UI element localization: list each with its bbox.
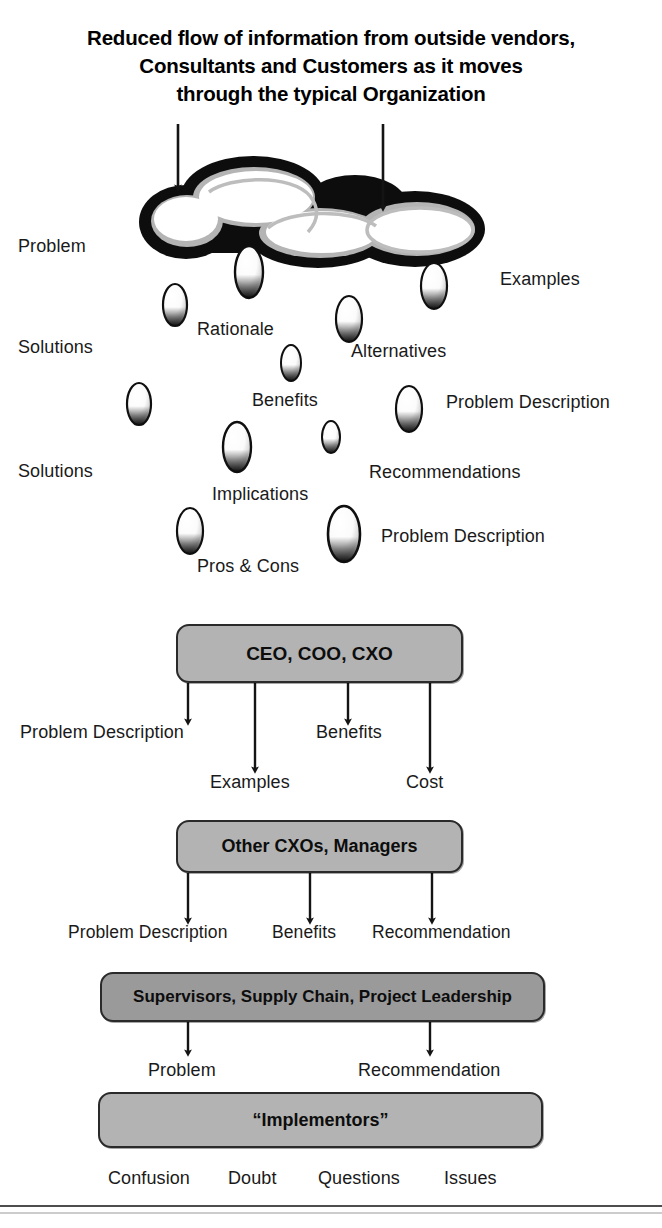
flow-label-ceo-cost: Cost: [406, 772, 443, 793]
org-box-other-cxos-label: Other CXOs, Managers: [221, 836, 417, 857]
arrows-from-supervisors: [188, 1022, 430, 1053]
droplet: [421, 263, 447, 309]
droplet-label-solutions-1: Solutions: [18, 337, 93, 358]
droplet: [235, 246, 263, 298]
arrows-from-ceo: [188, 683, 430, 770]
outcome-label-issues: Issues: [444, 1168, 497, 1189]
droplet-label-recommendations: Recommendations: [369, 462, 521, 483]
diagram-canvas: Reduced flow of information from outside…: [0, 0, 662, 1228]
flow-label-sup-problem: Problem: [148, 1060, 216, 1081]
flow-label-ceo-problem-description: Problem Description: [20, 722, 184, 743]
droplet: [223, 422, 251, 472]
diagram-graphics: [0, 0, 662, 1228]
droplet: [328, 506, 360, 562]
droplet-label-implications: Implications: [212, 484, 308, 505]
droplet: [336, 296, 362, 342]
footer-divider: [0, 1206, 662, 1213]
org-box-other-cxos[interactable]: Other CXOs, Managers: [176, 820, 463, 873]
droplet-label-alternatives: Alternatives: [351, 341, 446, 362]
droplet-label-problem-description-2: Problem Description: [381, 526, 545, 547]
flow-label-ceo-benefits: Benefits: [316, 722, 382, 743]
org-box-ceo[interactable]: CEO, COO, CXO: [176, 624, 463, 683]
droplet-label-solutions-2: Solutions: [18, 461, 93, 482]
org-box-implementors-label: “Implementors”: [252, 1110, 388, 1131]
outcome-label-confusion: Confusion: [108, 1168, 190, 1189]
droplet-label-problem-description-1: Problem Description: [446, 392, 610, 413]
droplet-label-rationale: Rationale: [197, 319, 274, 340]
org-box-supervisors[interactable]: Supervisors, Supply Chain, Project Leade…: [100, 972, 545, 1022]
org-box-implementors[interactable]: “Implementors”: [98, 1092, 543, 1148]
outcome-label-doubt: Doubt: [228, 1168, 277, 1189]
droplet-label-pros-and-cons: Pros & Cons: [197, 556, 299, 577]
droplet: [127, 383, 151, 425]
droplet-label-benefits: Benefits: [252, 390, 318, 411]
flow-label-sup-recommendation: Recommendation: [358, 1060, 500, 1081]
droplet: [281, 345, 301, 381]
droplet-label-examples: Examples: [500, 269, 580, 290]
arrows-from-other-cxos: [188, 873, 432, 921]
flow-label-cxo-recommendation: Recommendation: [372, 922, 511, 943]
droplet: [322, 421, 340, 453]
outcome-label-questions: Questions: [318, 1168, 400, 1189]
org-box-supervisors-label: Supervisors, Supply Chain, Project Leade…: [133, 987, 512, 1007]
flow-label-ceo-examples: Examples: [210, 772, 290, 793]
information-cloud: [139, 156, 485, 268]
flow-label-cxo-benefits: Benefits: [272, 922, 336, 943]
org-box-ceo-label: CEO, COO, CXO: [246, 643, 393, 665]
droplet: [177, 508, 203, 554]
droplet: [396, 386, 422, 432]
droplet-label-problem: Problem: [18, 236, 86, 257]
flow-label-cxo-problem-description: Problem Description: [68, 922, 227, 943]
droplet: [163, 284, 187, 326]
